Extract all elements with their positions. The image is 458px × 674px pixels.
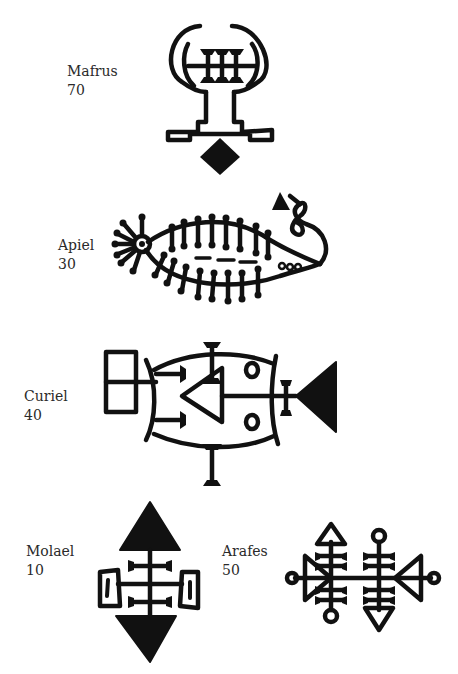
- molael-sigil-icon: [94, 500, 204, 668]
- sigil-name: Apiel: [58, 236, 94, 255]
- sigil-number: 10: [26, 561, 74, 580]
- sigil-label-mafrus: Mafrus 70: [67, 62, 118, 100]
- mafrus-sigil-icon: [160, 20, 285, 175]
- sigil-number: 40: [24, 406, 68, 425]
- sigil-label-arafes: Arafes 50: [222, 542, 268, 580]
- sigil-label-molael: Molael 10: [26, 542, 74, 580]
- sigil-number: 30: [58, 255, 94, 274]
- sigil-name: Mafrus: [67, 62, 118, 81]
- curiel-sigil-icon: [100, 340, 342, 490]
- sigil-label-curiel: Curiel 40: [24, 387, 68, 425]
- sigil-name: Arafes: [222, 542, 268, 561]
- apiel-sigil-icon: [110, 190, 335, 320]
- sigil-name: Curiel: [24, 387, 68, 406]
- sigil-name: Molael: [26, 542, 74, 561]
- arafes-sigil-icon: [283, 520, 443, 635]
- sigil-number: 70: [67, 81, 118, 100]
- sigil-number: 50: [222, 561, 268, 580]
- sigil-label-apiel: Apiel 30: [58, 236, 94, 274]
